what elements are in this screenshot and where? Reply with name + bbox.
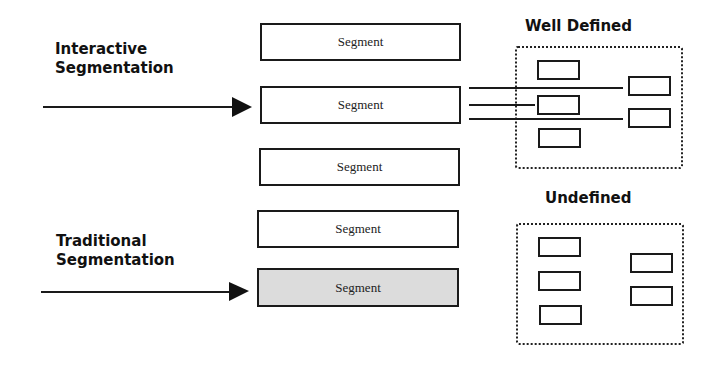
segment-label: Segment [335, 221, 381, 237]
well-defined-left-box-3 [538, 128, 581, 148]
segment-label: Segment [338, 34, 384, 50]
interactive-arrow-icon [43, 97, 252, 117]
interactive-label-line2: Segmentation [55, 59, 174, 78]
well-defined-right-box-1 [628, 76, 671, 96]
undefined-left-box-2 [538, 271, 581, 291]
traditional-arrow-icon [41, 282, 249, 301]
undefined-right-box-2 [630, 286, 673, 306]
segment-label: Segment [337, 159, 383, 175]
undefined-left-box-1 [538, 237, 581, 257]
well-defined-left-box-1 [537, 60, 580, 80]
undefined-left-box-3 [539, 305, 582, 325]
segment-label: Segment [335, 280, 381, 296]
traditional-segmentation-label: Traditional Segmentation [56, 232, 175, 270]
segment-label: Segment [338, 97, 384, 113]
segment-box-5-shaded: Segment [257, 268, 459, 307]
segment-box-1: Segment [260, 23, 461, 61]
interactive-segmentation-label: Interactive Segmentation [55, 40, 174, 78]
undefined-title: Undefined [545, 189, 631, 208]
segment-box-4: Segment [257, 210, 459, 248]
traditional-label-line2: Segmentation [56, 251, 175, 270]
well-defined-left-box-2 [537, 95, 580, 115]
segment-box-2: Segment [260, 86, 461, 124]
segmentation-diagram: Interactive Segmentation Traditional Seg… [0, 0, 720, 374]
well-defined-right-box-2 [628, 108, 671, 128]
undefined-right-box-1 [630, 253, 673, 273]
traditional-label-line1: Traditional [56, 232, 175, 251]
well-defined-title: Well Defined [525, 17, 632, 36]
interactive-label-line1: Interactive [55, 40, 174, 59]
segment-box-3: Segment [259, 148, 460, 186]
